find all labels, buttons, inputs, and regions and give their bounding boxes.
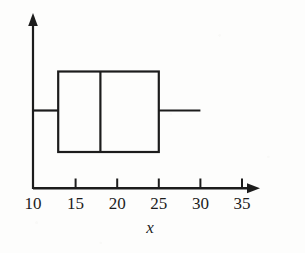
boxplot-canvas <box>0 0 305 253</box>
boxplot-figure: 10 15 20 25 30 35 x <box>0 0 305 253</box>
x-axis <box>33 183 260 193</box>
x-axis-label: x <box>135 219 165 236</box>
x-tick-label-25: 25 <box>139 195 179 212</box>
x-tick-label-30: 30 <box>180 195 220 212</box>
x-tick-label-10: 10 <box>13 195 53 212</box>
y-axis-arrowhead-icon <box>28 13 38 26</box>
box-plot-glyph <box>33 72 200 153</box>
x-axis-arrowhead-icon <box>247 183 260 193</box>
x-tick-label-20: 20 <box>97 195 137 212</box>
interquartile-box <box>58 72 159 153</box>
x-tick-label-35: 35 <box>222 195 262 212</box>
x-tick-label-15: 15 <box>56 195 96 212</box>
y-axis <box>28 13 38 189</box>
x-axis-ticks <box>76 179 242 189</box>
